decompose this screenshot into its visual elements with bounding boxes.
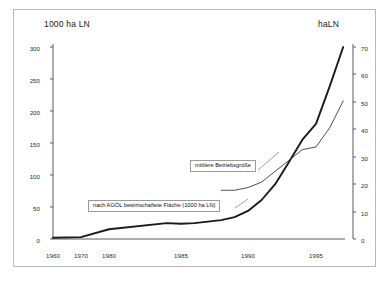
- series-line-betriebsgroesse: [221, 101, 343, 190]
- callout-leader-flaeche: [235, 199, 248, 208]
- callout-leader-betriebsgroesse: [258, 152, 279, 170]
- chart-figure: 1000 ha LN haLN 300 250 200 150 100 50 0…: [0, 0, 391, 282]
- callout-agoel-flaeche: nach AGÖL bewirtschaftete Fläche (1000 h…: [88, 200, 220, 212]
- callout-mittlere-betriebsgroesse: mittlere Betriebsgröße: [190, 160, 256, 172]
- plot-area: [0, 0, 391, 282]
